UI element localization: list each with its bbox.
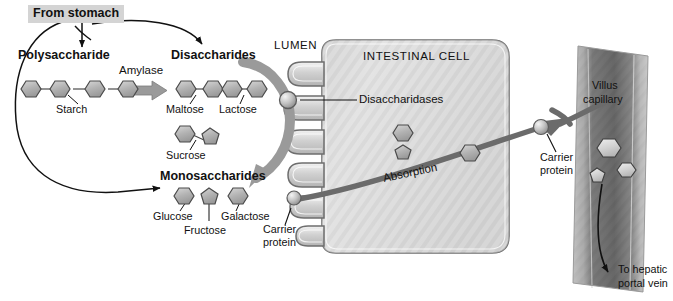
diagram-canvas: Absorption From stomach Polysaccharide D…	[0, 0, 673, 301]
carrier-protein-knob-basolateral	[534, 120, 549, 135]
stomach-to-disaccharides-arrow	[92, 21, 202, 44]
monosaccharides-label: Monosaccharides	[160, 170, 266, 183]
sucrose-molecule	[175, 126, 219, 144]
microvilli-group	[284, 62, 324, 246]
stomach-branch-left	[75, 26, 91, 40]
carrier-protein-knob-basal	[287, 191, 301, 205]
galactose-label: Galactose	[221, 211, 270, 222]
polysaccharide-label: Polysaccharide	[18, 49, 110, 62]
to-hepatic-label-line2: portal vein	[618, 278, 668, 289]
glucose-label: Glucose	[153, 211, 193, 222]
maltose-label: Maltose	[166, 104, 204, 115]
glucose-molecule	[174, 188, 194, 204]
maltose-molecule	[176, 81, 223, 97]
carrier-protein-right-label-line1: Carrier	[540, 152, 573, 163]
amylase-label: Amylase	[119, 65, 163, 77]
villus-capillary-label-line2: capillary	[583, 94, 623, 105]
intestinal-cell-label: INTESTINAL CELL	[363, 51, 470, 63]
disaccharides-label: Disaccharides	[171, 49, 256, 62]
carrier-protein-knob-apical	[280, 92, 297, 109]
carrier-protein-right-leader	[547, 134, 556, 152]
carrier-protein-left-label-line1: Carrier	[263, 224, 296, 235]
from-stomach-label: From stomach	[28, 5, 124, 23]
carrier-protein-left-label-line2: protein	[263, 237, 296, 248]
lactose-label: Lactose	[219, 104, 257, 115]
lumen-label: LUMEN	[274, 40, 317, 52]
sucrose-label: Sucrose	[166, 150, 206, 161]
fructose-molecule	[201, 188, 218, 204]
starch-molecule	[21, 81, 138, 97]
fructose-label: Fructose	[184, 225, 226, 236]
carrier-protein-right-label-line2: protein	[540, 165, 573, 176]
starch-label: Starch	[56, 104, 87, 115]
to-hepatic-label-line1: To hepatic	[618, 264, 667, 275]
disaccharidases-label: Disaccharidases	[359, 94, 443, 106]
lactose-molecule	[222, 81, 267, 97]
galactose-molecule	[228, 188, 248, 204]
villus-capillary-label-line1: Villus	[592, 80, 618, 91]
